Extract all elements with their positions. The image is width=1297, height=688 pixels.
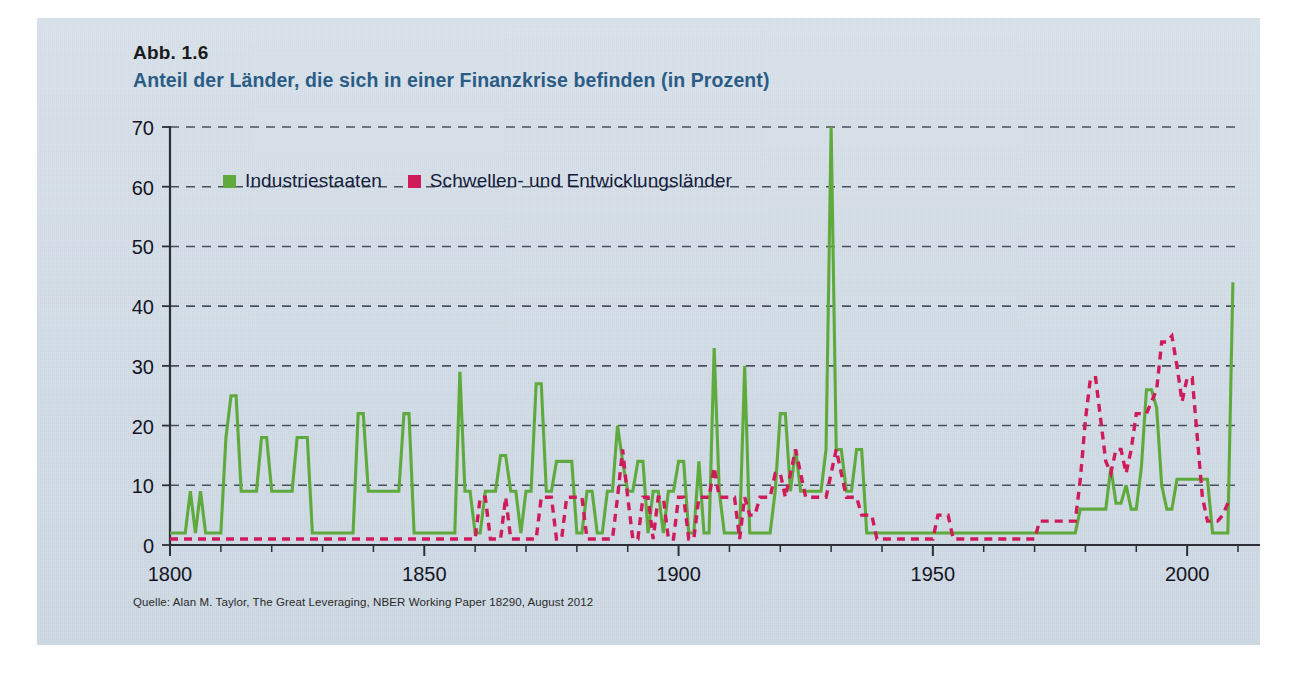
ytick-label-20: 20 bbox=[132, 416, 154, 438]
legend-entry-schwellenlaender[interactable]: Schwellen- und Entwicklungsländer bbox=[408, 170, 732, 192]
ytick-label-30: 30 bbox=[132, 356, 154, 378]
legend-label-industriestaaten: Industriestaaten bbox=[245, 170, 382, 192]
legend-entry-industriestaaten[interactable]: Industriestaaten bbox=[223, 170, 382, 192]
legend-swatch-crimson bbox=[408, 175, 421, 188]
ytick-label-50: 50 bbox=[132, 236, 154, 258]
source-note: Quelle: Alan M. Taylor, The Great Levera… bbox=[133, 596, 593, 608]
ytick-label-60: 60 bbox=[132, 177, 154, 199]
chart-svg: 01020304050607018001850190019502000 bbox=[37, 18, 1260, 645]
figure-panel: Abb. 1.6 Anteil der Länder, die sich in … bbox=[37, 18, 1260, 645]
xtick-label-2000: 2000 bbox=[1165, 563, 1210, 585]
xtick-label-1850: 1850 bbox=[402, 563, 447, 585]
xtick-label-1900: 1900 bbox=[656, 563, 701, 585]
ytick-label-70: 70 bbox=[132, 117, 154, 139]
legend-label-schwellenlaender: Schwellen- und Entwicklungsländer bbox=[430, 170, 732, 192]
ytick-label-40: 40 bbox=[132, 296, 154, 318]
xtick-label-1800: 1800 bbox=[148, 563, 193, 585]
legend-swatch-green bbox=[223, 175, 236, 188]
xtick-label-1950: 1950 bbox=[911, 563, 956, 585]
chart-legend: Industriestaaten Schwellen- und Entwickl… bbox=[223, 170, 732, 192]
plot-area: 01020304050607018001850190019502000 bbox=[37, 18, 1260, 645]
ytick-label-10: 10 bbox=[132, 475, 154, 497]
ytick-label-0: 0 bbox=[143, 535, 154, 557]
